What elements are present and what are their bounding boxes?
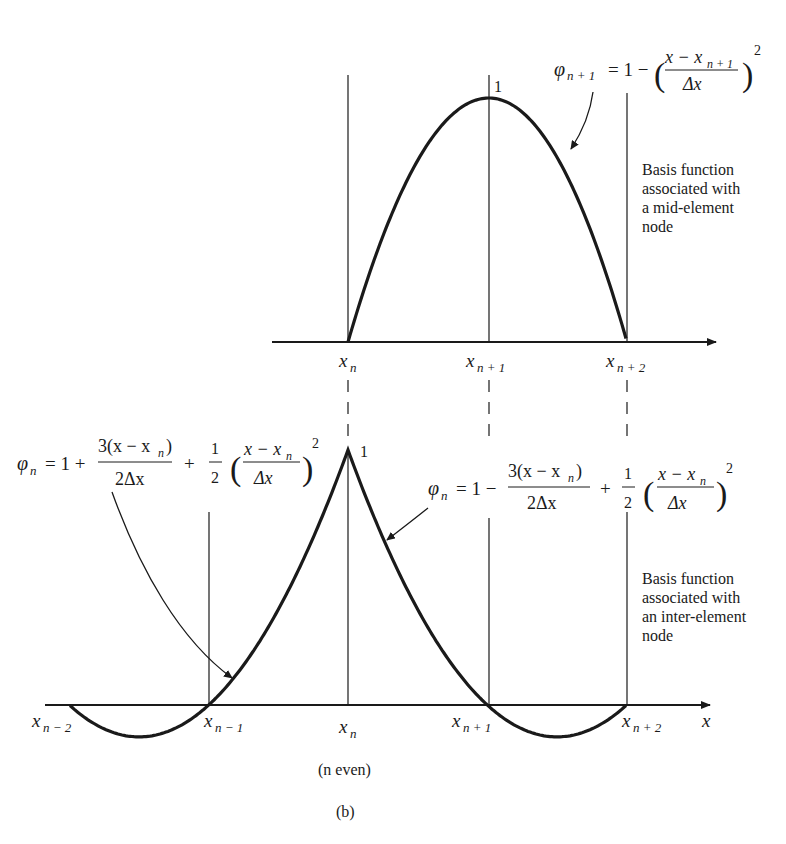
svg-text:Δx: Δx	[253, 468, 273, 488]
svg-text:): )	[742, 56, 753, 94]
svg-text:x: x	[31, 710, 41, 731]
svg-text:2Δx: 2Δx	[527, 493, 557, 513]
svg-text:3(x − x: 3(x − x	[98, 436, 150, 457]
top-peak-label: 1	[494, 78, 502, 95]
svg-text:n: n	[568, 471, 574, 485]
bottom-node-label-xn1: x n + 1	[451, 710, 491, 735]
svg-text:n + 2: n + 2	[633, 720, 662, 735]
svg-text:x: x	[203, 710, 213, 731]
left-formula: φ n = 1 + 3(x − x n ) 2Δx + 1 2 ( x − x …	[17, 436, 319, 489]
dashed-connectors	[348, 380, 627, 445]
svg-text:x − x: x − x	[657, 464, 695, 484]
svg-text:(: (	[643, 475, 654, 513]
svg-text:2Δx: 2Δx	[115, 469, 145, 489]
svg-text:= 1 +: = 1 +	[45, 453, 85, 474]
svg-text:1: 1	[624, 465, 632, 482]
svg-text:n + 2: n + 2	[617, 360, 646, 375]
svg-text:n: n	[286, 449, 292, 463]
svg-text:n − 1: n − 1	[215, 720, 243, 735]
right-formula: φ n = 1 − 3(x − x n ) 2Δx + 1 2 ( x − x …	[428, 461, 733, 513]
svg-text:x: x	[605, 350, 615, 371]
svg-text:x: x	[621, 710, 631, 731]
svg-text:): )	[576, 461, 582, 482]
top-node-label-xn1: x n + 1	[465, 350, 505, 375]
svg-text:x: x	[338, 350, 348, 371]
svg-text:n: n	[350, 726, 357, 741]
mid-element-basis-curve	[348, 17, 627, 342]
svg-text:Δx: Δx	[667, 493, 687, 513]
svg-text:+: +	[184, 453, 195, 474]
svg-text:n + 1: n + 1	[463, 720, 491, 735]
svg-text:= 1 −: = 1 −	[456, 478, 496, 499]
top-formula: φ n + 1 = 1 − ( x − x n + 1 Δx ) 2	[554, 43, 761, 94]
svg-text:2: 2	[726, 461, 733, 476]
svg-text:n + 1: n + 1	[567, 68, 595, 83]
svg-text:n + 1: n + 1	[707, 57, 733, 71]
svg-text:n: n	[30, 463, 37, 478]
svg-text:= 1 −: = 1 −	[608, 59, 648, 80]
parity-condition: (n even)	[318, 761, 371, 779]
svg-text:): )	[716, 475, 727, 513]
bottom-panel: 1 x n − 2 x n − 1 x n x n + 1 x n + 2 x …	[17, 436, 733, 821]
top-formula-pointer-arrow	[571, 92, 593, 149]
bottom-node-label-xn-1: x n − 1	[203, 710, 243, 735]
svg-text:n + 1: n + 1	[477, 360, 505, 375]
svg-text:): )	[166, 436, 172, 457]
svg-text:n: n	[441, 488, 448, 503]
svg-text:Δx: Δx	[682, 74, 702, 94]
svg-text:2: 2	[624, 494, 632, 511]
svg-text:(: (	[654, 56, 665, 94]
top-node-label-xn: x n	[338, 350, 357, 375]
svg-text:2: 2	[754, 43, 761, 58]
x-axis-label: x	[701, 710, 711, 731]
svg-text:n: n	[700, 474, 706, 488]
svg-text:φ: φ	[428, 477, 439, 500]
bottom-node-label-xn2: x n + 2	[621, 710, 662, 735]
svg-text:n: n	[350, 360, 357, 375]
bottom-peak-label: 1	[360, 443, 368, 460]
svg-text:+: +	[600, 478, 611, 499]
bottom-node-label-xn: x n	[338, 716, 357, 741]
right-formula-pointer-arrow	[387, 508, 428, 540]
svg-text:1: 1	[211, 440, 219, 457]
mid-element-basis-curve-drawn	[348, 98, 626, 342]
svg-text:x: x	[451, 710, 461, 731]
svg-text:x: x	[465, 350, 475, 371]
left-formula-pointer-arrow	[112, 492, 232, 678]
svg-text:φ: φ	[17, 452, 28, 475]
svg-text:(: (	[230, 450, 241, 488]
top-panel-description: Basis function associated with a mid-ele…	[642, 160, 740, 236]
top-node-label-xn2: x n + 2	[605, 350, 646, 375]
svg-text:φ: φ	[554, 58, 565, 81]
figure-caption: (b)	[336, 803, 355, 821]
svg-text:2: 2	[211, 469, 219, 486]
bottom-node-label-xn-2: x n − 2	[31, 710, 72, 735]
svg-text:x − x: x − x	[243, 439, 281, 459]
svg-text:n: n	[158, 446, 164, 460]
svg-text:x − x: x − x	[664, 47, 702, 67]
svg-text:2: 2	[312, 436, 319, 451]
basis-function-diagram: 1 x n x n + 1 x n + 2 φ n + 1 = 1 − ( x …	[0, 0, 786, 844]
svg-text:): )	[302, 450, 313, 488]
svg-text:n − 2: n − 2	[43, 720, 72, 735]
svg-text:x: x	[338, 716, 348, 737]
svg-text:3(x − x: 3(x − x	[508, 461, 560, 482]
bottom-panel-description: Basis function associated with an inter-…	[642, 569, 746, 645]
